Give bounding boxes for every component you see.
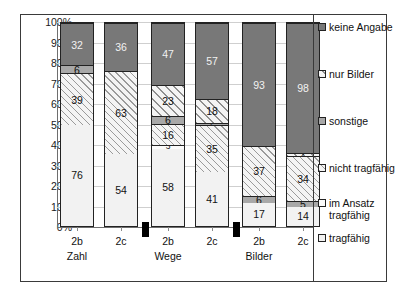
group-separator-marker <box>142 222 149 237</box>
bar-segment-value: 18 <box>206 106 218 117</box>
bar-segment-value: 17 <box>253 209 265 220</box>
bar-segment-value: 2 <box>210 123 215 126</box>
bar-segment-value: 54 <box>115 185 127 196</box>
plot-area: 7639632546336583166234741352185717637931… <box>57 22 310 227</box>
bar-segment[interactable]: 6 <box>152 116 184 124</box>
bar-segment-value: 14 <box>297 211 309 222</box>
bar-segment[interactable]: 37 <box>243 146 275 195</box>
bar-segment[interactable]: 16 <box>152 124 184 145</box>
bar-segment-value: 98 <box>297 83 309 94</box>
bar-segment[interactable]: 76 <box>61 125 93 226</box>
bar-segment[interactable]: 93 <box>243 23 275 146</box>
legend-label: keine Angabe <box>329 22 393 34</box>
x-axis-label-wege-2b: 2b <box>148 235 188 247</box>
bar-segment[interactable]: 2 <box>287 153 319 156</box>
bar-segment-value: 3 <box>166 145 171 149</box>
bar-segment[interactable]: 3 <box>152 145 184 149</box>
legend-item-keine-angabe[interactable]: keine Angabe <box>318 22 393 34</box>
legend-item-sonstige[interactable]: sonstige <box>318 116 368 128</box>
bar-segment[interactable]: 39 <box>61 73 93 125</box>
bar-segment-value: 34 <box>297 174 309 185</box>
bar-segment[interactable]: 35 <box>196 125 228 171</box>
x-axis-group-label-wege: Wege <box>148 250 188 262</box>
bar-segment[interactable]: 6 <box>243 196 275 204</box>
x-axis-label-bilder-2b: 2b <box>239 235 279 247</box>
x-axis-label-zahl-2c: 2c <box>101 235 141 247</box>
legend-label: nicht tragfähig <box>329 163 395 175</box>
bar-segment[interactable]: 6 <box>61 65 93 73</box>
bar-segment-value: 76 <box>71 170 83 181</box>
legend-item-nur-bilder[interactable]: nur Bilder <box>318 69 374 81</box>
x-axis-group-label-zahl: Zahl <box>57 250 97 262</box>
chart-screenshot: 0%10%20%30%40%50%60%70%80%90%100% 763963… <box>0 0 407 306</box>
legend-divider <box>313 15 314 281</box>
bar-segment-value: 5 <box>300 201 306 208</box>
bar-segment-value: 6 <box>74 65 80 73</box>
bar-segment-value: 39 <box>71 95 83 106</box>
x-axis-tick <box>212 227 213 231</box>
legend-label: tragfähig <box>329 233 370 245</box>
x-axis-label-wege-2c: 2c <box>192 235 232 247</box>
bar-segment-value: 47 <box>162 49 174 60</box>
x-axis-tick <box>121 227 122 231</box>
legend-label: sonstige <box>329 116 368 128</box>
bar-segment-value: 35 <box>206 144 218 155</box>
bar-segment[interactable]: 5 <box>287 201 319 208</box>
bar-segment[interactable]: 2 <box>196 123 228 126</box>
x-axis-tick <box>168 227 169 231</box>
bar-segment[interactable]: 54 <box>105 154 137 226</box>
bar-segment-value: 57 <box>206 56 218 67</box>
bar-segment[interactable]: 36 <box>105 23 137 71</box>
legend-swatch-icon <box>318 23 326 31</box>
group-separator-marker <box>233 222 240 237</box>
bar-segment[interactable]: 34 <box>287 156 319 201</box>
legend-swatch-icon <box>318 234 326 242</box>
legend-swatch-icon <box>318 199 326 207</box>
bar-segment-value: 32 <box>71 40 83 51</box>
bar-zahl-2c[interactable]: 546336 <box>104 22 138 227</box>
legend-item-tragfähig[interactable]: tragfähig <box>318 233 370 245</box>
bar-segment[interactable]: 41 <box>196 172 228 226</box>
bar-bilder-2b[interactable]: 1763793 <box>242 22 276 227</box>
bar-segment[interactable]: 23 <box>152 85 184 116</box>
legend-swatch-icon <box>318 164 326 172</box>
bar-bilder-2c[interactable]: 14534298 <box>286 22 320 227</box>
bar-segment-value: 23 <box>162 96 174 107</box>
bar-segment[interactable]: 57 <box>196 23 228 99</box>
bar-segment-value: 36 <box>115 42 127 53</box>
bar-segment[interactable]: 58 <box>152 149 184 226</box>
bar-segment[interactable]: 14 <box>287 207 319 226</box>
x-axis-group-label-bilder: Bilder <box>239 250 279 262</box>
x-axis-tick <box>77 227 78 231</box>
bar-segment[interactable]: 98 <box>287 23 319 153</box>
bar-segment[interactable]: 32 <box>61 23 93 65</box>
legend-label: nur Bilder <box>329 69 374 81</box>
bar-segment[interactable]: 47 <box>152 23 184 85</box>
x-axis-line <box>57 227 313 228</box>
bar-segment-value: 16 <box>162 130 174 141</box>
legend-label: im Ansatz tragfähig <box>329 198 375 221</box>
legend-swatch-icon <box>318 117 326 125</box>
bar-segment-value: 41 <box>206 194 218 205</box>
x-axis-label-zahl-2b: 2b <box>57 235 97 247</box>
bar-wege-2b[interactable]: 5831662347 <box>151 22 185 227</box>
x-axis-label-bilder-2c: 2c <box>283 235 323 247</box>
bar-segment[interactable]: 63 <box>105 71 137 155</box>
x-axis-tick <box>303 227 304 231</box>
bar-segment-value: 2 <box>301 153 306 156</box>
bar-segment-value: 6 <box>165 116 171 124</box>
bar-wege-2c[interactable]: 413521857 <box>195 22 229 227</box>
bar-segment-value: 37 <box>253 166 265 177</box>
bar-zahl-2b[interactable]: 7639632 <box>60 22 94 227</box>
legend-item-nicht-tragfähig[interactable]: nicht tragfähig <box>318 163 395 175</box>
bar-segment-value: 63 <box>115 108 127 119</box>
bar-segment[interactable]: 18 <box>196 99 228 123</box>
x-axis-tick <box>259 227 260 231</box>
bar-segment-value: 93 <box>253 80 265 91</box>
bar-segment-value: 58 <box>162 182 174 193</box>
legend-item-im-ansatz-tragfähig[interactable]: im Ansatz tragfähig <box>318 198 375 221</box>
bar-segment[interactable]: 17 <box>243 203 275 226</box>
bar-segment-value: 6 <box>256 196 262 204</box>
legend-swatch-icon <box>318 70 326 78</box>
